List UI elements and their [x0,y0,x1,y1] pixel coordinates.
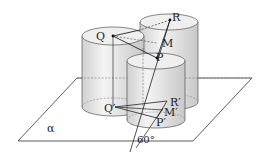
label-q: Q [96,30,105,43]
point-r [169,19,172,22]
label-p-prime: P′ [156,116,166,129]
label-q-prime: Q′ [104,102,116,115]
label-angle: 60° [137,134,155,145]
point-q [112,35,115,38]
label-m: M [162,37,173,50]
label-p: P [156,51,164,64]
label-alpha: α [47,122,55,135]
geometry-diagram: Q R M P Q′ R′ M′ P′ α 60° [0,0,268,165]
label-m-prime: M′ [164,106,178,119]
label-r: R [172,11,181,24]
